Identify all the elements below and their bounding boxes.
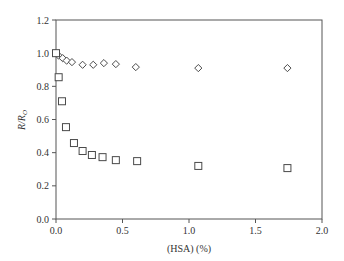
square-marker [53, 50, 60, 57]
y-axis: 0.00.20.40.60.81.01.2 [37, 15, 57, 225]
x-tick-label: 0.0 [50, 225, 63, 236]
square-marker [55, 74, 62, 81]
plot-frame [56, 20, 322, 219]
diamond-marker [90, 61, 97, 68]
y-tick-label: 0.2 [37, 180, 50, 191]
y-tick-label: 0.6 [37, 114, 50, 125]
x-axis-label: (HSA) (%) [167, 243, 211, 255]
y-axis-label: R/RO [16, 110, 29, 131]
square-marker [58, 98, 65, 105]
diamond-marker [284, 64, 291, 71]
square-marker [70, 140, 77, 147]
square-marker [134, 158, 141, 165]
y-tick-label: 0.0 [37, 214, 50, 225]
scatter-chart: 0.00.20.40.60.81.01.2 0.00.51.01.52.0 (H… [0, 0, 344, 261]
square-marker [99, 154, 106, 161]
y-axis-label-sub: O [21, 110, 29, 115]
square-marker [112, 157, 119, 164]
y-tick-label: 0.4 [37, 147, 50, 158]
x-tick-label: 1.5 [249, 225, 262, 236]
data-points [52, 50, 291, 172]
y-tick-label: 1.2 [37, 15, 50, 26]
square-marker [195, 162, 202, 169]
x-tick-label: 0.5 [116, 225, 129, 236]
square-marker [284, 165, 291, 172]
x-tick-label: 2.0 [316, 225, 329, 236]
diamond-marker [112, 61, 119, 68]
diamond-marker [195, 64, 202, 71]
square-marker [62, 124, 69, 131]
x-axis: 0.00.51.01.52.0 [50, 219, 329, 236]
diamond-marker [100, 60, 107, 67]
y-axis-label-main: R/R [16, 115, 27, 131]
y-tick-label: 0.8 [37, 81, 50, 92]
x-tick-label: 1.0 [183, 225, 196, 236]
square-marker [79, 148, 86, 155]
y-tick-label: 1.0 [37, 48, 50, 59]
diamond-marker [79, 61, 86, 68]
square-marker [88, 151, 95, 158]
diamond-marker [132, 63, 139, 70]
